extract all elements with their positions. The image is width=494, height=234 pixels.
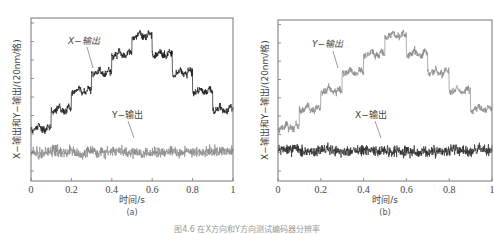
x-tick-label: 0.2	[315, 184, 328, 195]
panel-b: 00.20.40.60.81 X−输出和Y−输出/(20nm/格) 时间/s (…	[259, 20, 494, 217]
annotation-leader-b2	[375, 121, 381, 138]
plot-traces-a	[31, 30, 233, 159]
annotation-leader-a1	[87, 47, 93, 68]
plot-traces-b	[278, 30, 492, 159]
figure: 00.20.40.60.81 X−输出和Y−输出/(20nm/格) 时间/s (…	[0, 0, 494, 234]
annotation-x-output-b: X−输出	[355, 109, 387, 120]
x-axis-label-b: 时间/s	[372, 194, 398, 205]
x-tick-label: 1	[231, 184, 236, 195]
panel-a: 00.20.40.60.81 X−输出和Y−输出/(20nm/格) 时间/s (…	[11, 18, 236, 217]
panel-label-b: (b)	[379, 208, 390, 217]
y-axis-label-b: X−输出和Y−输出/(20nm/格)	[259, 40, 270, 160]
annotation-y-output-a: Y−输出	[111, 109, 143, 120]
series-noise	[278, 143, 492, 159]
figure-caption: 图4.6 在X方向和Y方向测试编码器分辨率	[174, 224, 320, 234]
x-tick-label: 0.8	[186, 184, 199, 195]
x-tick-label: 0	[276, 184, 281, 195]
annotation-x-output-a: X−输出	[67, 36, 101, 46]
x-tick-label: 0.6	[146, 184, 159, 195]
annotation-leader-b1	[333, 51, 338, 68]
annotation-y-output-b: Y−输出	[312, 39, 344, 49]
y-axis-label-a: X−输出和Y−输出/(20nm/格)	[11, 39, 22, 159]
x-tick-label: 0.8	[443, 184, 456, 195]
x-tick-label: 0	[29, 184, 34, 195]
x-tick-label: 0.2	[65, 184, 78, 195]
series-noise	[31, 144, 233, 159]
x-tick-label: 1	[490, 184, 494, 195]
panel-label-a: (a)	[126, 208, 137, 217]
x-tick-label: 0.6	[400, 184, 413, 195]
x-tick-label: 0.4	[106, 184, 119, 195]
x-tick-label: 0.4	[357, 184, 370, 195]
x-axis-label-a: 时间/s	[119, 194, 145, 205]
annotation-leader-a2	[128, 121, 134, 138]
